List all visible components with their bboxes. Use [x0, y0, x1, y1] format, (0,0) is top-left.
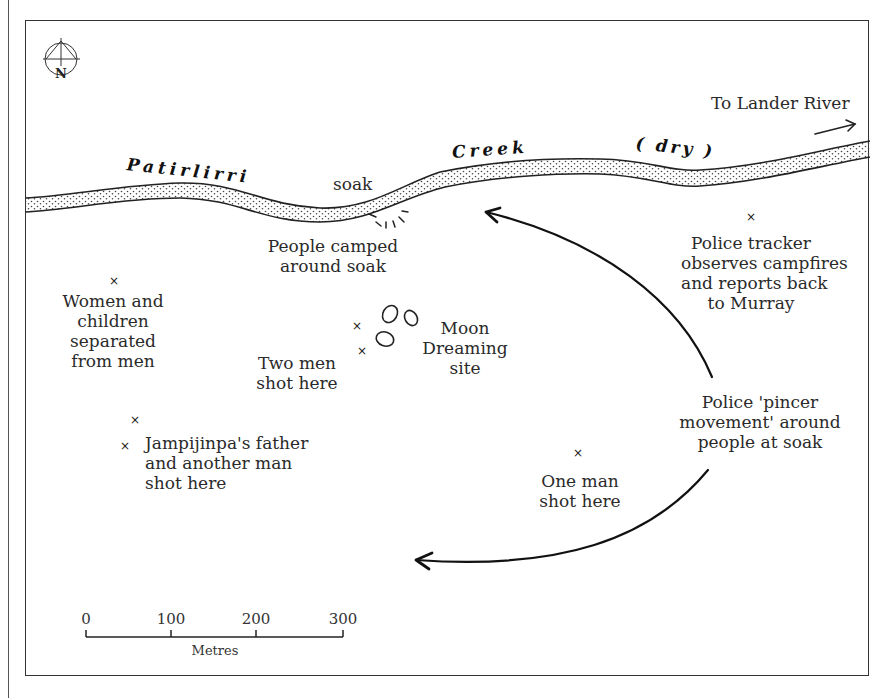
soak-label: soak: [333, 174, 372, 194]
creek-channel: [25, 141, 870, 222]
pincer-arrow-upper-icon: [486, 208, 712, 377]
one-man-label: One man shot here: [530, 471, 630, 511]
marker-jampijinpa-b: ×: [120, 440, 130, 452]
marker-tracker: ×: [746, 211, 756, 223]
women-label: Women and children separated from men: [30, 291, 196, 371]
jampijinpa-label: Jampijinpa's father and another man shot…: [145, 433, 308, 493]
arrow-right-icon: [815, 120, 855, 134]
north-label: N: [55, 66, 67, 81]
marker-women: ×: [109, 275, 119, 287]
camp-label: People camped around soak: [252, 236, 414, 276]
pincer-label: Police 'pincer movement' around people a…: [664, 392, 856, 452]
marker-jampijinpa-a: ×: [130, 414, 140, 426]
moon-dreaming-label: Moon Dreaming site: [415, 318, 515, 378]
moon-dreaming-rocks-icon: [374, 303, 420, 349]
tracker-label: Police tracker observes campfires and re…: [681, 233, 821, 313]
two-men-label: Two men shot here: [245, 353, 349, 393]
soak-icon: [369, 211, 408, 228]
marker-two-men-a: ×: [352, 320, 362, 332]
marker-one-man: ×: [573, 447, 583, 459]
scale-tick-100: 100: [157, 610, 186, 628]
scale-tick-300: 300: [329, 610, 358, 628]
direction-label: To Lander River: [711, 93, 850, 113]
scale-tick-200: 200: [242, 610, 271, 628]
scale-tick-0: 0: [81, 610, 91, 628]
marker-two-men-b: ×: [357, 345, 367, 357]
scale-unit-label: Metres: [192, 643, 239, 658]
scale-bar: [86, 630, 343, 637]
